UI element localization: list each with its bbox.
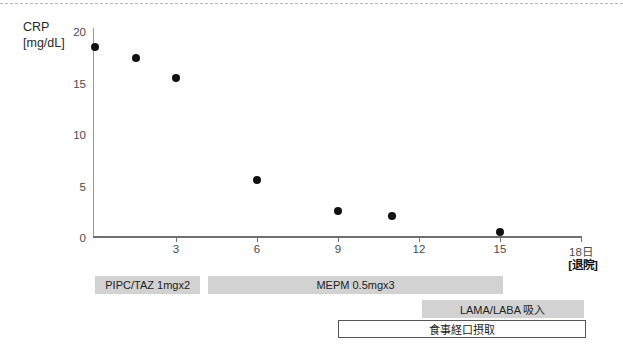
treatment-bar: 食事経口摂取 [338, 320, 586, 338]
x-tick-mark [176, 238, 177, 242]
x-tick-mark [581, 238, 582, 242]
discharge-label: [退院] [568, 256, 598, 272]
treatment-bar: PIPC/TAZ 1mgx2 [95, 276, 200, 294]
crp-data-point [253, 176, 261, 184]
crp-data-point [91, 43, 99, 51]
treatment-bar: LAMA/LABA 吸入 [422, 300, 584, 318]
treatment-bar: MEPM 0.5mgx3 [208, 276, 502, 294]
y-tick-label: 0 [50, 232, 86, 244]
y-tick-label: 10 [50, 129, 86, 141]
crp-data-point [132, 54, 140, 62]
y-axis-line [93, 28, 94, 238]
x-tick-label: 6 [254, 243, 260, 255]
x-tick-mark [500, 238, 501, 242]
crp-data-point [388, 212, 396, 220]
crp-data-point [334, 207, 342, 215]
crp-clinical-course-chart: CRP [mg/dL] 20151050 369121518日 PIPC/TAZ… [0, 0, 623, 351]
y-tick-label: 5 [50, 181, 86, 193]
page-divider-line [0, 3, 623, 4]
x-tick-mark [338, 238, 339, 242]
y-tick-label: 15 [50, 78, 86, 90]
x-tick-label: 12 [413, 243, 426, 255]
crp-data-point [172, 74, 180, 82]
crp-data-point [496, 228, 504, 236]
x-tick-mark [257, 238, 258, 242]
x-tick-label: 15 [494, 243, 507, 255]
x-tick-label: 3 [173, 243, 179, 255]
y-tick-label: 20 [50, 26, 86, 38]
x-tick-label: 9 [335, 243, 341, 255]
x-tick-mark [419, 238, 420, 242]
